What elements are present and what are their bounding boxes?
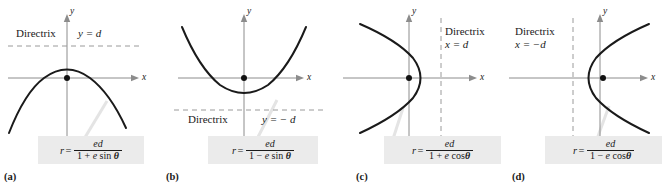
formula-fraction: ed 1 − e cosθ	[587, 139, 634, 162]
denominator-fn: sin	[97, 150, 114, 161]
panel-c: Directrix x = d x y r= ed 1 + e cosθ (c)	[335, 0, 505, 186]
conic-sections-figure: Directrix y = d x y r= ed 1 + e sin θ (a…	[0, 0, 670, 186]
formula-numerator: ed	[602, 139, 619, 150]
formula-numerator: ed	[89, 139, 106, 150]
directrix-label: Directrix	[515, 25, 555, 37]
formula-box: r= ed 1 + e cosθ	[384, 136, 501, 164]
panel-b: Directrix y = − d x y r= ed 1 − e sin θ …	[165, 0, 335, 186]
y-axis-label: y	[603, 6, 607, 17]
panel-tag-b: (b)	[166, 171, 179, 182]
directrix-equation: x = d	[445, 38, 468, 50]
formula-lhs: r	[573, 145, 577, 156]
formula-equals: =	[418, 145, 424, 156]
denominator-prefix: 1 +	[77, 150, 93, 161]
formula-equals: =	[238, 145, 244, 156]
directrix-label: Directrix	[16, 27, 56, 39]
x-axis-label: x	[307, 72, 311, 83]
formula-equals: =	[66, 145, 72, 156]
x-axis-arrow	[296, 75, 304, 81]
polar-equation: r= ed 1 + e cosθ	[412, 139, 473, 162]
y-axis-label: y	[247, 6, 251, 17]
denominator-fn: cos	[610, 150, 626, 161]
formula-lhs: r	[412, 145, 416, 156]
panel-d: Directrix x = −d x y r= ed 1 − e cosθ (d…	[505, 0, 670, 186]
formula-fraction: ed 1 + e cosθ	[426, 139, 473, 162]
leader-line	[393, 108, 403, 139]
formula-numerator: ed	[441, 139, 458, 150]
denominator-angle: θ	[114, 150, 119, 161]
x-axis-label: x	[142, 72, 146, 83]
focus-point	[406, 75, 412, 81]
formula-denominator: 1 + e sin θ	[74, 151, 122, 162]
denominator-prefix: 1 −	[590, 150, 606, 161]
x-axis-label: x	[651, 72, 655, 83]
polar-equation: r= ed 1 + e sin θ	[60, 139, 122, 162]
x-axis-arrow	[469, 75, 477, 81]
formula-fraction: ed 1 − e sin θ	[246, 139, 294, 162]
formula-denominator: 1 − e cosθ	[587, 151, 634, 162]
formula-lhs: r	[232, 145, 236, 156]
directrix-label: Directrix	[188, 113, 228, 125]
y-axis-label: y	[70, 6, 74, 17]
formula-box: r= ed 1 + e sin θ	[38, 136, 144, 164]
panel-tag-a: (a)	[4, 171, 16, 182]
denominator-angle: θ	[465, 150, 470, 161]
leader-line	[84, 101, 107, 139]
formula-numerator: ed	[261, 139, 278, 150]
focus-point	[600, 75, 606, 81]
x-axis-label: x	[480, 72, 484, 83]
formula-box: r= ed 1 − e cosθ	[545, 136, 662, 164]
denominator-prefix: 1 −	[249, 150, 265, 161]
x-axis-arrow	[131, 75, 139, 81]
formula-fraction: ed 1 + e sin θ	[74, 139, 122, 162]
x-axis-arrow	[640, 75, 648, 81]
panel-a: Directrix y = d x y r= ed 1 + e sin θ (a…	[0, 0, 165, 186]
panel-tag-d: (d)	[512, 171, 525, 182]
y-axis-label: y	[412, 6, 416, 17]
directrix-equation: y = d	[78, 27, 101, 39]
focus-point	[241, 75, 247, 81]
formula-equals: =	[579, 145, 585, 156]
directrix-equation: x = −d	[515, 38, 546, 50]
focus-point	[64, 75, 70, 81]
formula-denominator: 1 − e sin θ	[246, 151, 294, 162]
formula-box: r= ed 1 − e sin θ	[208, 136, 318, 164]
formula-denominator: 1 + e cosθ	[426, 151, 473, 162]
polar-equation: r= ed 1 − e sin θ	[232, 139, 294, 162]
polar-equation: r= ed 1 − e cosθ	[573, 139, 634, 162]
panel-tag-c: (c)	[356, 171, 368, 182]
denominator-angle: θ	[286, 150, 291, 161]
denominator-fn: sin	[269, 150, 286, 161]
denominator-fn: cos	[449, 150, 465, 161]
denominator-angle: θ	[626, 150, 631, 161]
directrix-equation: y = − d	[262, 113, 295, 125]
denominator-prefix: 1 +	[429, 150, 445, 161]
leader-line	[597, 106, 609, 139]
directrix-label: Directrix	[445, 25, 485, 37]
formula-lhs: r	[60, 145, 64, 156]
